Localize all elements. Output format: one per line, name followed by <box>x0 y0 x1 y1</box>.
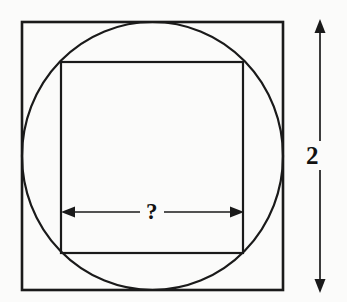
arrow-head-up-icon <box>315 19 326 33</box>
arrow-head-down-icon <box>315 279 326 293</box>
geometry-figure <box>0 0 347 302</box>
inner-square <box>61 62 243 253</box>
diagram-canvas: 2 ? <box>0 0 347 302</box>
outer-square-side-label: 2 <box>306 143 319 168</box>
arrow-head-left-icon <box>61 207 75 218</box>
arrow-head-right-icon <box>230 207 244 218</box>
inner-square-side-label: ? <box>146 200 158 223</box>
